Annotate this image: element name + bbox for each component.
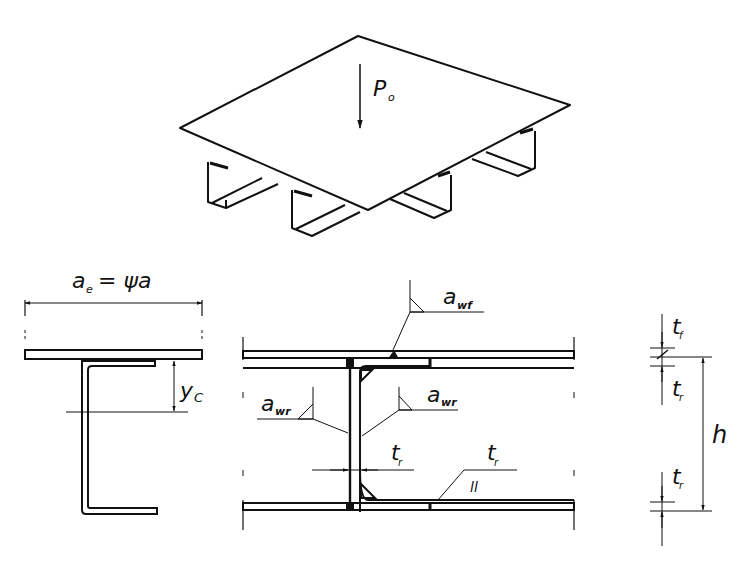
load-label: P (373, 76, 387, 101)
effective-width-sub: e (86, 283, 93, 296)
weld-left-label: a (261, 391, 274, 416)
weld-left-sub: wr (275, 405, 291, 418)
weld-right-sub: wr (441, 396, 457, 409)
right-dimensions (650, 314, 712, 546)
bottom-rib-sub: r (679, 480, 684, 491)
effective-width-eq: = ψa (98, 268, 151, 293)
diagram-canvas: P o a e = ψa y C (0, 0, 753, 567)
stiffener-1 (208, 162, 278, 208)
effective-width-label: a (72, 268, 85, 293)
weld-top-sub: wf (457, 299, 473, 312)
middle-cross-section (243, 280, 574, 530)
thickness-bottom-sub: r (494, 457, 499, 468)
isometric-deck-view (180, 36, 570, 236)
weld-right-label: a (427, 382, 440, 407)
weld-top-label: a (443, 284, 456, 309)
load-label-sub: o (388, 91, 395, 104)
centroid-label: y (179, 378, 194, 403)
deck-plate (180, 36, 570, 210)
parallel-symbol: ll (470, 479, 478, 495)
left-cross-section (25, 300, 202, 514)
top-flange-sub: f (679, 330, 684, 341)
centroid-sub: C (194, 390, 204, 405)
thickness-web-sub: r (398, 457, 403, 468)
height-label: h (712, 421, 727, 449)
top-rib-sub: r (679, 392, 684, 403)
